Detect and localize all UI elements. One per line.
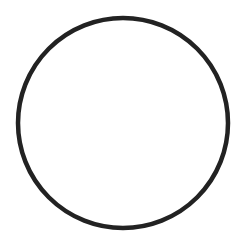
circle-outline-icon: [18, 18, 228, 228]
circle-graphic: [0, 0, 248, 246]
canvas: [0, 0, 248, 246]
